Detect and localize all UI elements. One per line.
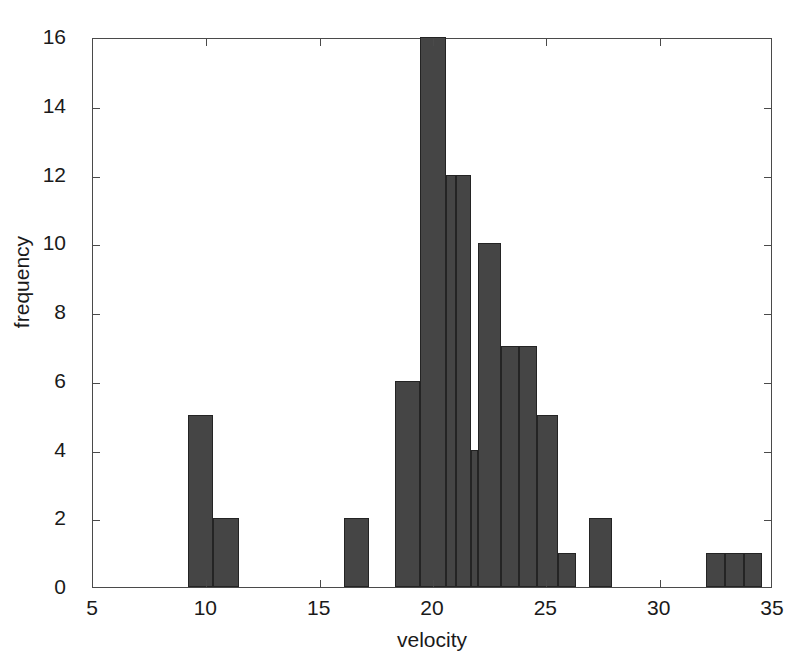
- histogram-bar: [478, 243, 501, 587]
- histogram-bar: [501, 346, 519, 587]
- x-axis-tick: [433, 39, 434, 46]
- plot-area: [92, 38, 772, 588]
- y-axis-title: frequency: [10, 182, 34, 382]
- y-axis-tick-label: 2: [54, 506, 66, 530]
- y-axis-tick-label: 0: [54, 575, 66, 599]
- y-axis-tick: [93, 245, 100, 246]
- x-axis-tick-label: 35: [760, 596, 783, 620]
- x-axis-tick: [320, 39, 321, 46]
- y-axis-tick-label: 16: [43, 25, 66, 49]
- x-axis-tick: [433, 580, 434, 587]
- x-axis-tick: [660, 580, 661, 587]
- histogram-bar: [344, 518, 370, 587]
- histogram-bar: [446, 175, 456, 588]
- x-axis-tick: [546, 39, 547, 46]
- histogram-bar: [519, 346, 537, 587]
- bars-layer: [93, 39, 771, 587]
- x-axis-tick: [546, 580, 547, 587]
- y-axis-tick-label: 12: [43, 163, 66, 187]
- x-axis-tick-label: 10: [194, 596, 217, 620]
- histogram-bar: [725, 553, 743, 587]
- y-axis-tick: [764, 383, 771, 384]
- histogram-bar: [744, 553, 762, 587]
- y-axis-tick: [93, 383, 100, 384]
- y-axis-tick: [764, 108, 771, 109]
- y-axis-tick: [93, 314, 100, 315]
- y-axis-tick: [764, 520, 771, 521]
- x-axis-tick-label: 20: [420, 596, 443, 620]
- y-axis-tick: [764, 452, 771, 453]
- histogram-bar: [706, 553, 725, 587]
- histogram-bar: [395, 381, 421, 587]
- histogram-bar: [537, 415, 557, 587]
- y-axis-tick: [93, 520, 100, 521]
- histogram-bar: [456, 175, 472, 588]
- x-axis-title: velocity: [92, 628, 772, 652]
- y-axis-tick: [93, 108, 100, 109]
- histogram-bar: [471, 450, 478, 588]
- histogram-bar: [188, 415, 213, 587]
- histogram-bar: [558, 553, 576, 587]
- x-axis-tick-label: 15: [307, 596, 330, 620]
- x-axis-tick-label: 25: [534, 596, 557, 620]
- y-axis-tick: [93, 452, 100, 453]
- y-axis-tick: [764, 314, 771, 315]
- x-axis-tick-label: 30: [647, 596, 670, 620]
- y-axis-tick: [764, 177, 771, 178]
- histogram-figure: 0246810121416 5101520253035 velocity fre…: [0, 0, 811, 669]
- y-axis-tick: [764, 245, 771, 246]
- y-axis-tick-label: 6: [54, 369, 66, 393]
- y-axis-tick: [93, 177, 100, 178]
- x-axis-tick-labels: 5101520253035: [92, 596, 772, 628]
- histogram-bar: [213, 518, 239, 587]
- x-axis-tick: [320, 580, 321, 587]
- x-axis-tick-label: 5: [86, 596, 98, 620]
- y-axis-tick-label: 4: [54, 438, 66, 462]
- histogram-bar: [420, 37, 445, 587]
- x-axis-tick: [660, 39, 661, 46]
- histogram-bar: [589, 518, 612, 587]
- y-axis-tick-label: 8: [54, 300, 66, 324]
- y-axis-tick-label: 10: [43, 231, 66, 255]
- x-axis-tick: [206, 580, 207, 587]
- y-axis-tick-label: 14: [43, 94, 66, 118]
- x-axis-tick: [206, 39, 207, 46]
